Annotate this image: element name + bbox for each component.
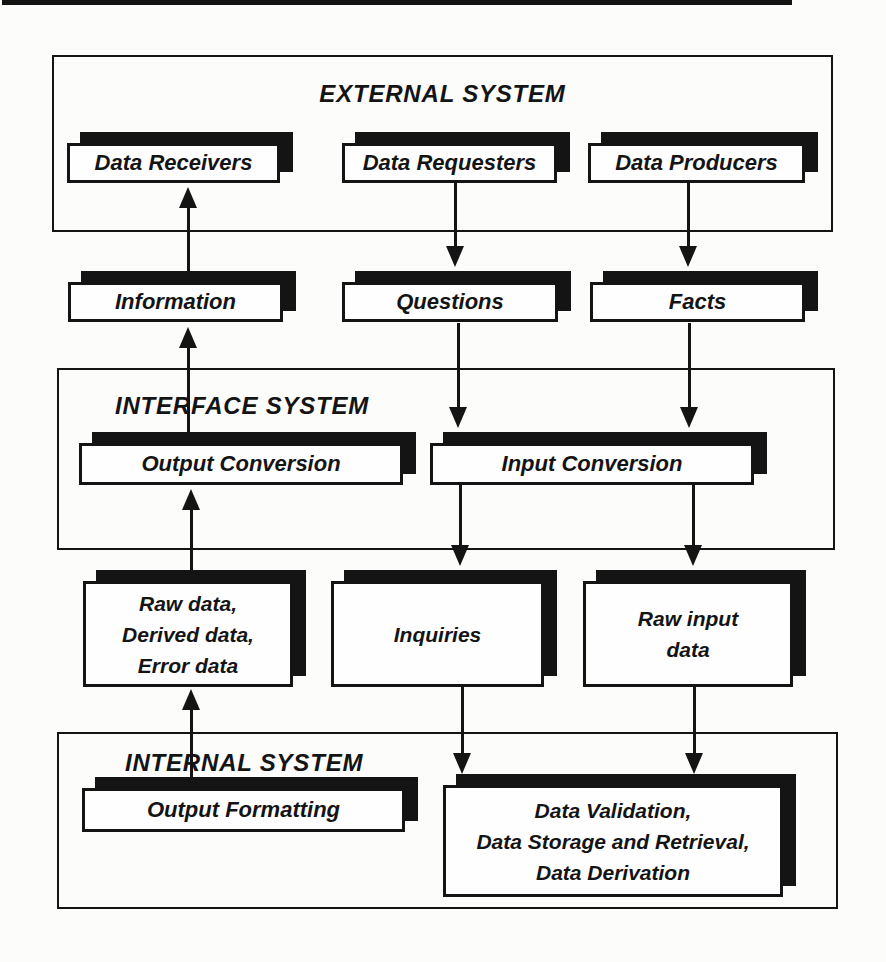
arrowhead-up-icon	[182, 489, 200, 510]
external-system-title: EXTERNAL SYSTEM	[54, 80, 831, 108]
arrow-output-conversion-to-information	[179, 327, 197, 433]
arrowhead-down-icon	[446, 246, 464, 267]
box-output-data: Raw data, Derived data, Error data	[83, 581, 293, 687]
box-questions: Questions	[342, 282, 558, 322]
arrowhead-down-icon	[453, 753, 471, 774]
arrow-raw-input-data-to-data-processing	[685, 687, 703, 774]
arrow-line	[190, 701, 193, 778]
arrow-data-producers-to-facts	[679, 183, 697, 267]
arrow-questions-to-input-conversion	[449, 323, 467, 428]
arrowhead-up-icon	[179, 327, 197, 348]
arrow-facts-to-input-conversion	[680, 323, 698, 428]
box-label: Input Conversion	[502, 449, 683, 479]
box-label-line: data	[666, 634, 709, 665]
arrowhead-down-icon	[684, 545, 702, 566]
arrow-line	[457, 323, 460, 416]
box-input-conversion: Input Conversion	[430, 443, 754, 485]
box-information: Information	[68, 282, 283, 322]
box-label: Output Formatting	[147, 795, 340, 825]
arrow-inquiries-to-data-processing	[453, 687, 471, 774]
arrow-line	[459, 485, 462, 554]
arrow-line	[688, 323, 691, 416]
box-data-requesters: Data Requesters	[342, 143, 557, 183]
box-label-line: Raw input	[638, 603, 738, 634]
arrow-input-conversion-to-raw-input-data	[684, 485, 702, 566]
page-header-rule	[2, 0, 792, 5]
internal-system-title: INTERNAL SYSTEM	[125, 749, 363, 777]
box-label: Inquiries	[394, 619, 482, 650]
arrow-line	[687, 183, 690, 255]
arrowhead-down-icon	[680, 407, 698, 428]
box-label-line: Data Derivation	[536, 857, 690, 888]
box-inquiries: Inquiries	[331, 581, 544, 687]
box-data-receivers: Data Receivers	[67, 143, 280, 183]
box-raw-input-data: Raw input data	[583, 581, 793, 687]
arrow-line	[461, 687, 464, 762]
box-label: Information	[115, 287, 236, 317]
box-data-producers: Data Producers	[588, 143, 805, 183]
arrow-input-conversion-to-inquiries	[451, 485, 469, 566]
box-label: Data Producers	[615, 148, 778, 178]
box-label-line: Raw data,	[139, 588, 237, 619]
figure-canvas: EXTERNAL SYSTEM INTERFACE SYSTEM INTERNA…	[0, 0, 886, 962]
arrow-output-data-to-output-conversion	[182, 489, 200, 570]
arrowhead-down-icon	[449, 407, 467, 428]
box-output-formatting: Output Formatting	[82, 788, 405, 832]
arrowhead-down-icon	[679, 246, 697, 267]
box-label-line: Derived data,	[122, 619, 254, 650]
arrow-information-to-data-receivers	[179, 187, 197, 272]
arrow-line	[454, 183, 457, 255]
box-label-line: Error data	[138, 650, 238, 681]
box-label-line: Data Storage and Retrieval,	[476, 826, 749, 857]
box-output-conversion: Output Conversion	[79, 443, 403, 485]
arrow-line	[693, 687, 696, 762]
box-label: Output Conversion	[141, 449, 340, 479]
box-label: Facts	[669, 287, 726, 317]
arrowhead-up-icon	[182, 689, 200, 710]
box-data-processing: Data Validation, Data Storage and Retrie…	[443, 785, 783, 897]
arrow-line	[190, 501, 193, 570]
arrow-line	[187, 199, 190, 272]
box-label-line: Data Validation,	[535, 795, 692, 826]
arrow-line	[692, 485, 695, 554]
arrowhead-up-icon	[179, 187, 197, 208]
arrowhead-down-icon	[451, 545, 469, 566]
arrow-data-requesters-to-questions	[446, 183, 464, 267]
box-label: Data Requesters	[363, 148, 537, 178]
arrow-output-formatting-to-output-data	[182, 689, 200, 778]
arrow-line	[187, 339, 190, 433]
box-label: Data Receivers	[95, 148, 253, 178]
box-label: Questions	[396, 287, 504, 317]
arrowhead-down-icon	[685, 753, 703, 774]
interface-system-title: INTERFACE SYSTEM	[115, 392, 369, 420]
box-facts: Facts	[590, 282, 805, 322]
